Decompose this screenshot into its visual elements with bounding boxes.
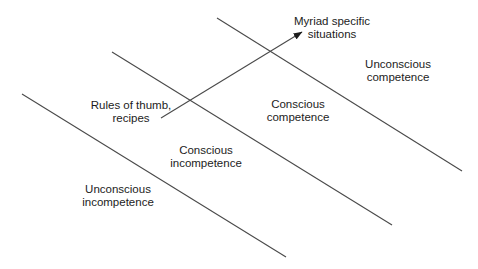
- boundary-line-top: [217, 18, 462, 171]
- label-unconscious-incompetence: Unconscious incompetence: [82, 183, 154, 208]
- diagram-canvas: Myriad specific situations Unconscious c…: [0, 0, 478, 269]
- label-line: Conscious: [170, 144, 242, 157]
- label-line: recipes: [91, 112, 172, 125]
- label-conscious-competence: Conscious competence: [267, 98, 330, 123]
- label-unconscious-competence: Unconscious competence: [365, 58, 431, 83]
- label-line: Unconscious: [82, 183, 154, 196]
- label-line: situations: [294, 28, 370, 41]
- label-line: competence: [365, 71, 431, 84]
- diagram-lines-layer: [0, 0, 478, 269]
- label-line: Myriad specific: [294, 15, 370, 28]
- label-line: incompetence: [82, 196, 154, 209]
- label-line: competence: [267, 111, 330, 124]
- label-line: Conscious: [267, 98, 330, 111]
- label-line: Rules of thumb,: [91, 99, 172, 112]
- label-line: Unconscious: [365, 58, 431, 71]
- label-rules-of-thumb: Rules of thumb, recipes: [91, 99, 172, 124]
- boundary-line-middle: [112, 52, 392, 225]
- label-myriad-specific-situations: Myriad specific situations: [294, 15, 370, 40]
- label-line: incompetence: [170, 157, 242, 170]
- label-conscious-incompetence: Conscious incompetence: [170, 144, 242, 169]
